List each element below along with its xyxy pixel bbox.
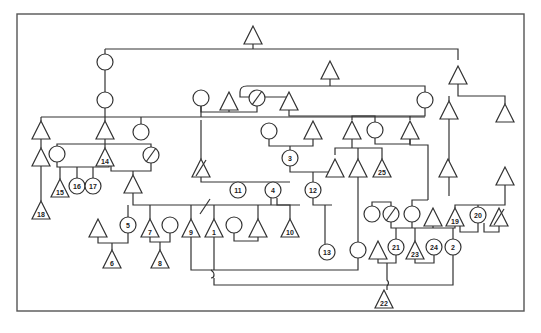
- node-label: 10: [286, 229, 294, 236]
- relationship-line: [201, 177, 290, 182]
- circle-icon: [404, 206, 420, 222]
- triangle-node: 19: [446, 208, 464, 226]
- circle-node: [364, 206, 380, 222]
- node-label: 6: [110, 260, 114, 267]
- circle-node: [162, 217, 178, 233]
- triangle-node: 18: [32, 201, 50, 219]
- node-label: 20: [474, 212, 482, 219]
- circle-icon: [350, 242, 366, 258]
- circle-node: [49, 146, 65, 162]
- circle-node: [261, 123, 277, 139]
- circle-node: 2: [445, 239, 461, 255]
- node-label: 14: [101, 158, 109, 165]
- circle-node: [133, 124, 149, 140]
- triangle-icon: [369, 241, 387, 259]
- triangle-icon: [321, 61, 339, 79]
- triangle-node: [496, 104, 514, 122]
- triangle-node: [326, 159, 344, 177]
- relationship-line: [449, 84, 505, 104]
- node-label: 19: [451, 218, 459, 225]
- triangle-node: 10: [281, 219, 299, 237]
- circle-node: [350, 242, 366, 258]
- triangle-node: [89, 219, 107, 237]
- circle-node: 21: [388, 239, 404, 255]
- circle-icon: [261, 123, 277, 139]
- triangle-node: 14: [96, 148, 114, 166]
- circle-node: [193, 90, 209, 106]
- relationship-line: [391, 222, 455, 228]
- triangle-node: [369, 241, 387, 259]
- relationship-line: [191, 237, 214, 278]
- node-label: 24: [430, 244, 438, 251]
- relationship-line: [412, 200, 428, 206]
- triangle-node: [401, 121, 419, 139]
- triangle-icon: [124, 175, 142, 193]
- triangle-icon: [496, 104, 514, 122]
- triangle-node: 8: [151, 250, 169, 268]
- relationship-line: [269, 139, 313, 146]
- node-label: 1: [212, 229, 216, 236]
- circle-icon: [193, 90, 209, 106]
- triangle-node: [321, 61, 339, 79]
- node-label: 9: [189, 229, 193, 236]
- circle-node: 3: [282, 150, 298, 166]
- triangle-icon: [449, 66, 467, 84]
- triangle-icon: [249, 219, 267, 237]
- circle-icon: [417, 92, 433, 108]
- triangle-node: [249, 219, 267, 237]
- relationship-line: [313, 198, 332, 205]
- triangle-node: [220, 92, 238, 110]
- relationship-line: [410, 139, 428, 200]
- triangle-node: [96, 121, 114, 139]
- triangle-node: 6: [103, 250, 121, 268]
- circle-node: [97, 92, 113, 108]
- relationship-line: [455, 185, 505, 208]
- relationship-line: [372, 202, 391, 206]
- relationship-line: [105, 49, 458, 60]
- node-label: 5: [126, 222, 130, 229]
- triangle-node: [244, 26, 262, 44]
- pedigree-diagram: 1432515161711412181920579110212324268132…: [0, 0, 541, 333]
- circle-node: [226, 217, 242, 233]
- node-label: 7: [148, 229, 152, 236]
- triangle-node: [343, 121, 361, 139]
- circle-node: 4: [265, 182, 281, 198]
- relationship-line: [247, 79, 425, 92]
- triangle-icon: [440, 101, 458, 119]
- circle-node: [367, 122, 383, 138]
- node-label: 25: [378, 169, 386, 176]
- circle-node: 17: [85, 178, 101, 194]
- triangle-node: [424, 208, 442, 226]
- node-label: 22: [380, 300, 388, 307]
- circle-icon: [226, 217, 242, 233]
- triangle-icon: [343, 121, 361, 139]
- triangle-node: 23: [406, 241, 424, 259]
- circle-node: [97, 54, 113, 70]
- triangle-node: [440, 101, 458, 119]
- node-label: 21: [392, 244, 400, 251]
- triangle-node: 7: [141, 219, 159, 237]
- pedigree-canvas: 1432515161711412181920579110212324268132…: [0, 0, 541, 333]
- relationship-line: [335, 148, 382, 159]
- triangle-node: [449, 66, 467, 84]
- circle-node: 11: [230, 182, 246, 198]
- circle-node: [417, 92, 433, 108]
- circle-node: 16: [69, 178, 85, 194]
- triangle-icon: [32, 121, 50, 139]
- node-label: 3: [288, 155, 292, 162]
- triangle-node: 9: [182, 219, 200, 237]
- circle-node: 20: [470, 207, 486, 223]
- triangle-node: [439, 159, 457, 177]
- node-label: 8: [158, 260, 162, 267]
- triangle-icon: [220, 92, 238, 110]
- triangle-icon: [439, 159, 457, 177]
- node-label: 23: [411, 251, 419, 258]
- triangle-node: [32, 121, 50, 139]
- triangle-node: [280, 92, 298, 110]
- circle-node: [404, 206, 420, 222]
- triangle-node: 1: [205, 219, 223, 237]
- triangle-icon: [424, 208, 442, 226]
- node-label: 2: [451, 244, 455, 251]
- node-label: 11: [234, 187, 242, 194]
- node-label: 12: [309, 187, 317, 194]
